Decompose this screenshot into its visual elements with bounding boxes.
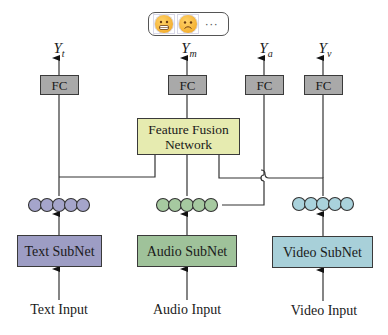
text-input-label: Text Input (30, 302, 88, 318)
y-multimodal-label: Ym (181, 40, 197, 59)
emoji-cell (153, 14, 175, 34)
more-ellipsis: ··· (205, 18, 219, 31)
y-text-label: Yt (53, 40, 64, 59)
y-video-label: Yv (319, 40, 332, 59)
emoji-cell (177, 14, 199, 34)
feature-fusion-network-box: Feature Fusion Network (137, 118, 240, 155)
fc-multimodal-box: FC (168, 75, 207, 95)
grimacing-face-icon (154, 14, 174, 34)
audio-feature-nodes (157, 199, 218, 212)
video-subnet-box: Video SubNet (272, 236, 373, 268)
sentiment-output-box: ··· (148, 12, 229, 36)
frowning-face-icon (178, 14, 198, 34)
fc-text-box: FC (40, 75, 79, 95)
audio-subnet-box: Audio SubNet (137, 235, 237, 267)
text-subnet-box: Text SubNet (17, 235, 102, 267)
fc-video-box: FC (304, 75, 343, 95)
text-feature-nodes (29, 199, 90, 212)
video-input-label: Video Input (291, 303, 357, 319)
fusion-label-line2: Network (148, 137, 229, 152)
video-feature-nodes (293, 198, 354, 211)
y-audio-label: Ya (259, 40, 272, 59)
fusion-label-line1: Feature Fusion (148, 122, 229, 137)
audio-input-label: Audio Input (153, 302, 221, 318)
fc-audio-box: FC (245, 75, 284, 95)
